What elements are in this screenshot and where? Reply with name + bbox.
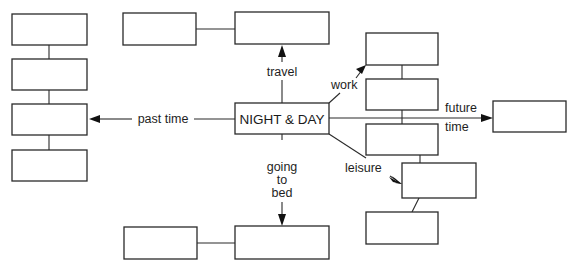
center-label: NIGHT & DAY bbox=[239, 112, 324, 127]
leisure-box-2[interactable] bbox=[366, 212, 438, 244]
past-time-label: past time bbox=[138, 112, 189, 126]
work-label: work bbox=[330, 78, 358, 92]
future-time-arrow-icon bbox=[481, 114, 493, 122]
leisure-box-1[interactable] bbox=[402, 163, 476, 198]
link-leisure-1-2 bbox=[412, 198, 419, 212]
work-box-1[interactable] bbox=[366, 33, 438, 65]
travel-arrow-icon bbox=[278, 45, 286, 57]
work-line-lower bbox=[329, 93, 340, 103]
past-time-box-1[interactable] bbox=[12, 14, 87, 45]
past-time-arrow-icon bbox=[89, 115, 100, 123]
travel-box-2[interactable] bbox=[123, 13, 196, 45]
boxes bbox=[12, 12, 566, 259]
to-label: to bbox=[277, 173, 287, 187]
work-box-2[interactable] bbox=[366, 79, 438, 110]
travel-box-1[interactable] bbox=[235, 12, 329, 44]
mind-map-diagram: NIGHT & DAY past time travel going to be… bbox=[0, 0, 578, 277]
bed-box-1[interactable] bbox=[235, 226, 329, 259]
time-label: time bbox=[445, 120, 469, 134]
work-arrow-icon bbox=[356, 65, 366, 74]
past-time-box-3[interactable] bbox=[12, 104, 87, 135]
bed-box-2[interactable] bbox=[124, 227, 197, 259]
future-time-box[interactable] bbox=[493, 101, 566, 132]
bed-arrow-icon bbox=[278, 214, 286, 226]
past-time-box-4[interactable] bbox=[12, 150, 87, 181]
leisure-line-upper bbox=[329, 134, 366, 158]
work-box-3[interactable] bbox=[366, 124, 438, 155]
past-time-box-2[interactable] bbox=[12, 59, 87, 90]
bed-label: bed bbox=[272, 186, 293, 200]
leisure-label: leisure bbox=[345, 161, 382, 175]
future-label: future bbox=[445, 101, 477, 115]
going-label: going bbox=[267, 160, 298, 174]
travel-label: travel bbox=[267, 65, 298, 79]
